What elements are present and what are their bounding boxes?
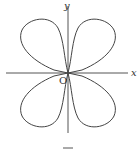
petal-upper-left	[21, 19, 68, 73]
origin-label: O	[59, 76, 67, 86]
rose-curve-diagram	[0, 0, 140, 152]
petal-upper-right	[68, 19, 115, 73]
y-axis-label: y	[64, 1, 70, 11]
petal-lower-right	[68, 73, 115, 127]
x-axis-label: x	[131, 68, 137, 78]
